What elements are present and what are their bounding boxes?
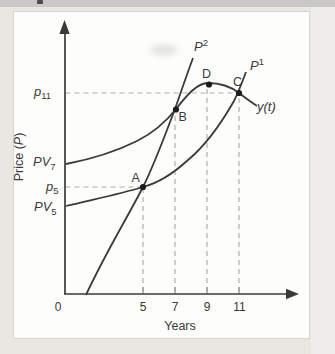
label-point-c: C (233, 75, 242, 89)
label-p11: p11 (33, 84, 51, 102)
y-axis-arrowhead (59, 20, 69, 34)
label-curve-p1: P1 (250, 56, 264, 74)
x-axis-arrowhead (286, 289, 299, 299)
figure-page: p11PV7p5PV5P2P1y(t)ABCD057911YearsPrice … (0, 0, 335, 354)
tick-label-7: 7 (172, 300, 179, 314)
tick-label-5: 5 (140, 300, 147, 314)
tick-label-11: 11 (233, 300, 246, 314)
figure-canvas: p11PV7p5PV5P2P1y(t)ABCD057911YearsPrice … (0, 0, 335, 354)
label-curve-p2: P2 (194, 37, 208, 55)
label-point-a: A (132, 171, 141, 185)
label-point-d: D (202, 67, 211, 81)
x-axis-title: Years (164, 319, 196, 333)
tick-label-9: 9 (204, 300, 211, 314)
curve-p1 (66, 72, 246, 206)
y-axis-title: Price (P) (12, 133, 26, 182)
label-point-b: B (179, 110, 187, 124)
label-pv5: PV5 (34, 199, 57, 217)
point-a (140, 184, 146, 190)
label-pv7: PV7 (33, 154, 56, 172)
point-c (236, 90, 242, 96)
tick-label-0: 0 (55, 300, 62, 314)
label-curve-yt: y(t) (256, 99, 276, 114)
label-p5: p5 (45, 179, 59, 197)
curve-yt (66, 83, 257, 164)
x-axis-ticks (143, 287, 239, 294)
point-d (206, 81, 212, 87)
